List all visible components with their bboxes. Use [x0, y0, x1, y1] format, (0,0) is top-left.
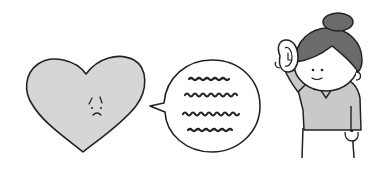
- heart-right-eye: [100, 107, 102, 109]
- illustration-canvas: [0, 0, 385, 170]
- sad-heart-icon: [27, 56, 145, 152]
- woman-hair-bun: [323, 13, 353, 31]
- scribble-line-3: [183, 113, 239, 116]
- woman-ear: [356, 72, 361, 80]
- woman-left-leg: [302, 128, 303, 158]
- heart-left-eye: [91, 107, 93, 109]
- woman-right-eye: [321, 69, 324, 72]
- listening-woman-icon: [275, 13, 362, 158]
- woman-right-hand: [345, 132, 358, 141]
- speech-bubble-icon: [150, 60, 260, 152]
- woman-left-eye: [312, 69, 315, 72]
